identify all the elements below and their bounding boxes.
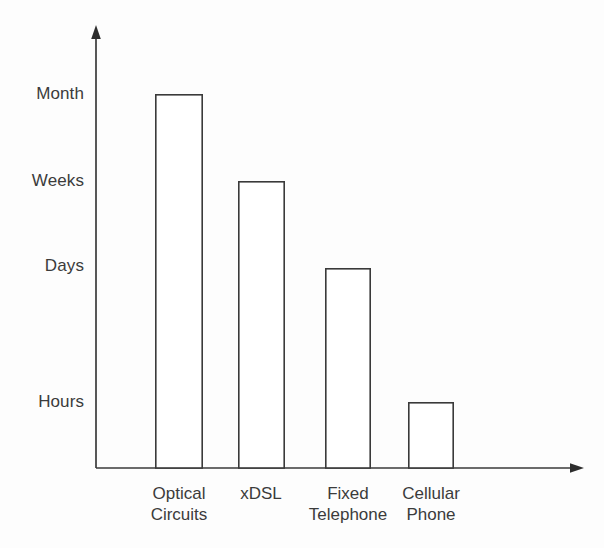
x-category-label-line2: Phone [366,504,496,525]
y-tick-label-hours: Hours [0,393,84,410]
bar-xdsl [239,182,284,468]
bar-fixed-telephone [326,269,370,468]
bar-optical-circuits [156,95,202,468]
y-axis-arrow-icon [91,25,101,39]
y-tick-label-days: Days [0,257,84,274]
chart-plot-area [0,0,604,548]
x-category-label-line1: Cellular [366,483,496,504]
bar-chart: Month Weeks Days Hours Optical Circuits … [0,0,604,548]
x-category-label-cellular-phone: Cellular Phone [366,483,496,525]
y-tick-label-month: Month [0,85,84,102]
bar-cellular-phone [409,403,453,468]
x-category-label-line2: Circuits [114,504,244,525]
x-axis-arrow-icon [570,463,584,473]
y-tick-label-weeks: Weeks [0,172,84,189]
